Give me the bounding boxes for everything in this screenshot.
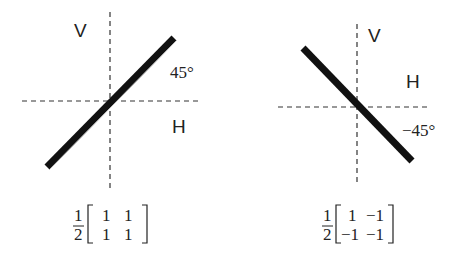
right-matrix-cell: −1 bbox=[341, 225, 359, 244]
right-v-label: V bbox=[368, 25, 381, 46]
left-matrix-prefactor-num: 1 bbox=[74, 206, 83, 225]
left-matrix-cell: 1 bbox=[102, 206, 111, 225]
right-matrix-bracket-close bbox=[388, 205, 393, 243]
left-panel: V H 45° 1 2 1 1 1 1 bbox=[22, 12, 198, 244]
right-matrix-cell: −1 bbox=[366, 225, 384, 244]
right-matrix-cell: −1 bbox=[366, 206, 384, 225]
left-matrix-prefactor-den: 2 bbox=[74, 225, 83, 244]
left-bar-highlight bbox=[49, 41, 176, 170]
left-matrix-cell: 1 bbox=[102, 225, 111, 244]
left-v-label: V bbox=[74, 20, 87, 41]
right-matrix-cell: 1 bbox=[348, 206, 357, 225]
left-angle-label: 45° bbox=[170, 63, 194, 82]
right-h-label: H bbox=[406, 71, 420, 92]
left-matrix: 1 2 1 1 1 1 bbox=[73, 205, 147, 244]
left-matrix-bracket-open bbox=[88, 205, 93, 243]
right-matrix-prefactor-den: 2 bbox=[323, 225, 332, 244]
right-matrix-prefactor-num: 1 bbox=[323, 206, 332, 225]
right-matrix: 1 2 1 −1 −1 −1 bbox=[322, 205, 393, 244]
left-matrix-cell: 1 bbox=[124, 225, 133, 244]
left-matrix-bracket-close bbox=[142, 205, 147, 243]
right-angle-label: −45° bbox=[402, 121, 435, 140]
polarizer-diagram: V H 45° 1 2 1 1 1 1 V H −45° 1 2 1 −1 bbox=[0, 0, 472, 262]
left-matrix-cell: 1 bbox=[124, 206, 133, 225]
left-h-label: H bbox=[172, 116, 186, 137]
right-panel: V H −45° 1 2 1 −1 −1 −1 bbox=[278, 24, 435, 244]
